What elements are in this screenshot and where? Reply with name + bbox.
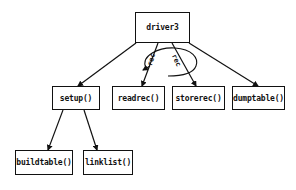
- node-setup: setup(): [52, 86, 100, 110]
- node-label: dumptable(): [233, 94, 284, 103]
- edge-driver3-setup: [78, 43, 136, 86]
- data-flow-label-readrec: rec: [146, 52, 157, 66]
- node-readrec: readrec(): [112, 86, 165, 110]
- edge-setup-linklist: [84, 110, 97, 150]
- edge-driver3-dumptable: [189, 43, 258, 86]
- node-buildtable: buildtable(): [15, 150, 73, 175]
- data-flow-label-storerec: rec: [170, 53, 183, 68]
- node-label: storerec(): [175, 94, 221, 103]
- edge-setup-buildtable: [48, 110, 63, 150]
- node-label: readrec(): [118, 94, 160, 103]
- node-label: buildtable(): [16, 158, 71, 167]
- node-label: driver3: [146, 23, 178, 32]
- node-label: linklist(): [85, 158, 131, 167]
- node-storerec: storerec(): [172, 86, 225, 110]
- node-driver3: driver3: [135, 12, 190, 43]
- node-linklist: linklist(): [83, 150, 133, 175]
- node-label: setup(): [60, 94, 92, 103]
- node-dumptable: dumptable(): [232, 86, 285, 110]
